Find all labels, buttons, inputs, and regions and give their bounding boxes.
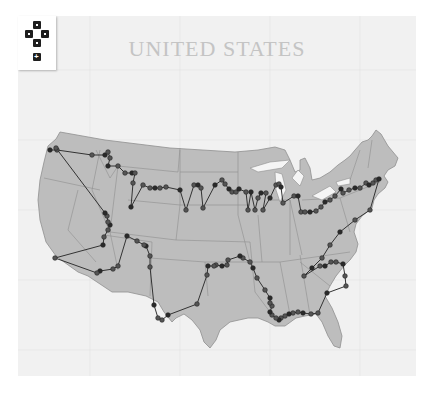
route-stop-marker[interactable]	[318, 264, 323, 269]
route-stop-marker[interactable]	[106, 228, 111, 233]
route-stop-marker[interactable]	[249, 190, 254, 195]
route-stop-marker[interactable]	[261, 208, 266, 213]
route-stop-marker[interactable]	[148, 254, 153, 259]
route-stop-marker[interactable]	[199, 186, 204, 191]
route-stop-marker[interactable]	[308, 210, 313, 215]
pan-left-button[interactable]	[25, 30, 33, 38]
route-stop-marker[interactable]	[334, 260, 339, 265]
route-stop-marker[interactable]	[201, 206, 206, 211]
route-stop-marker[interactable]	[263, 288, 268, 293]
route-stop-marker[interactable]	[116, 164, 121, 169]
route-stop-marker[interactable]	[123, 171, 128, 176]
route-stop-marker[interactable]	[328, 198, 333, 203]
route-stop-marker[interactable]	[333, 194, 338, 199]
route-stop-marker[interactable]	[244, 190, 249, 195]
route-stop-marker[interactable]	[102, 235, 107, 240]
pan-up-button[interactable]	[33, 21, 41, 29]
route-stop-marker[interactable]	[178, 188, 183, 193]
route-stop-marker[interactable]	[323, 264, 328, 269]
route-stop-marker[interactable]	[310, 266, 315, 271]
route-stop-marker[interactable]	[106, 164, 111, 169]
route-stop-marker[interactable]	[164, 185, 169, 190]
route-stop-marker[interactable]	[166, 313, 171, 318]
route-stop-marker[interactable]	[259, 191, 264, 196]
route-stop-marker[interactable]	[101, 243, 106, 248]
route-stop-marker[interactable]	[314, 209, 319, 214]
route-stop-marker[interactable]	[341, 262, 346, 267]
route-stop-marker[interactable]	[148, 265, 153, 270]
route-stop-marker[interactable]	[103, 211, 108, 216]
route-stop-marker[interactable]	[268, 296, 273, 301]
route-stop-marker[interactable]	[377, 177, 382, 182]
route-stop-marker[interactable]	[253, 208, 258, 213]
route-stop-marker[interactable]	[106, 150, 111, 155]
route-stop-marker[interactable]	[220, 264, 225, 269]
route-stop-marker[interactable]	[153, 186, 158, 191]
route-stop-marker[interactable]	[325, 291, 330, 296]
route-stop-marker[interactable]	[195, 302, 200, 307]
route-stop-marker[interactable]	[206, 264, 211, 269]
route-stop-marker[interactable]	[338, 230, 343, 235]
route-stop-marker[interactable]	[184, 208, 189, 213]
route-stop-marker[interactable]	[90, 153, 95, 158]
route-stop-marker[interactable]	[268, 310, 273, 315]
route-stop-marker[interactable]	[226, 258, 231, 263]
route-stop-marker[interactable]	[116, 264, 121, 269]
route-stop-marker[interactable]	[303, 210, 308, 215]
route-stop-marker[interactable]	[141, 183, 146, 188]
route-stop-marker[interactable]	[319, 205, 324, 210]
route-stop-marker[interactable]	[54, 146, 59, 151]
route-stop-marker[interactable]	[320, 256, 325, 261]
route-stop-marker[interactable]	[131, 181, 136, 186]
route-stop-marker[interactable]	[212, 264, 217, 269]
route-stop-marker[interactable]	[238, 254, 243, 259]
route-stop-marker[interactable]	[296, 194, 301, 199]
route-stop-marker[interactable]	[251, 266, 256, 271]
route-stop-marker[interactable]	[368, 208, 373, 213]
route-stop-marker[interactable]	[152, 303, 157, 308]
route-stop-marker[interactable]	[142, 243, 147, 248]
route-stop-marker[interactable]	[205, 273, 210, 278]
route-stop-marker[interactable]	[296, 310, 301, 315]
route-stop-marker[interactable]	[148, 186, 153, 191]
route-stop-marker[interactable]	[328, 243, 333, 248]
route-stop-marker[interactable]	[268, 301, 273, 306]
route-stop-marker[interactable]	[268, 196, 273, 201]
route-stop-marker[interactable]	[158, 186, 163, 191]
route-stop-marker[interactable]	[353, 218, 358, 223]
route-stop-marker[interactable]	[108, 156, 113, 161]
route-stop-marker[interactable]	[309, 312, 314, 317]
route-stop-marker[interactable]	[48, 148, 53, 153]
route-stop-marker[interactable]	[237, 187, 242, 192]
route-stop-marker[interactable]	[353, 186, 358, 191]
route-stop-marker[interactable]	[316, 311, 321, 316]
route-stop-marker[interactable]	[111, 267, 116, 272]
us-map[interactable]: UNITED STATES	[18, 16, 416, 376]
route-stop-marker[interactable]	[129, 205, 134, 210]
route-stop-marker[interactable]	[323, 200, 328, 205]
route-stop-marker[interactable]	[344, 284, 349, 289]
route-stop-marker[interactable]	[135, 239, 140, 244]
route-stop-marker[interactable]	[95, 271, 100, 276]
route-stop-marker[interactable]	[213, 183, 218, 188]
route-stop-marker[interactable]	[220, 178, 225, 183]
route-stop-marker[interactable]	[223, 182, 228, 187]
route-stop-marker[interactable]	[341, 191, 346, 196]
route-stop-marker[interactable]	[281, 201, 286, 206]
route-stop-marker[interactable]	[246, 208, 251, 213]
route-stop-marker[interactable]	[133, 171, 138, 176]
pan-right-button[interactable]	[41, 30, 49, 38]
route-stop-marker[interactable]	[274, 316, 279, 321]
route-stop-marker[interactable]	[343, 274, 348, 279]
route-stop-marker[interactable]	[255, 276, 260, 281]
route-stop-marker[interactable]	[106, 220, 111, 225]
route-stop-marker[interactable]	[156, 316, 161, 321]
pan-down-button[interactable]	[33, 39, 41, 47]
zoom-in-button[interactable]	[33, 53, 41, 61]
route-stop-marker[interactable]	[248, 260, 253, 265]
route-stop-marker[interactable]	[225, 263, 230, 268]
route-stop-marker[interactable]	[279, 185, 284, 190]
route-stop-marker[interactable]	[125, 234, 130, 239]
map-panel[interactable]: UNITED STATES	[18, 16, 416, 376]
route-stop-marker[interactable]	[256, 196, 261, 201]
